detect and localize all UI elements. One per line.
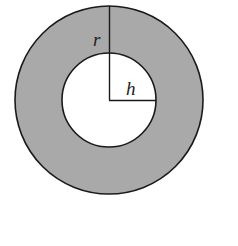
inner-radius-label: h	[126, 78, 136, 99]
annulus-diagram: r h	[0, 0, 238, 246]
outer-radius-label: r	[93, 29, 101, 50]
